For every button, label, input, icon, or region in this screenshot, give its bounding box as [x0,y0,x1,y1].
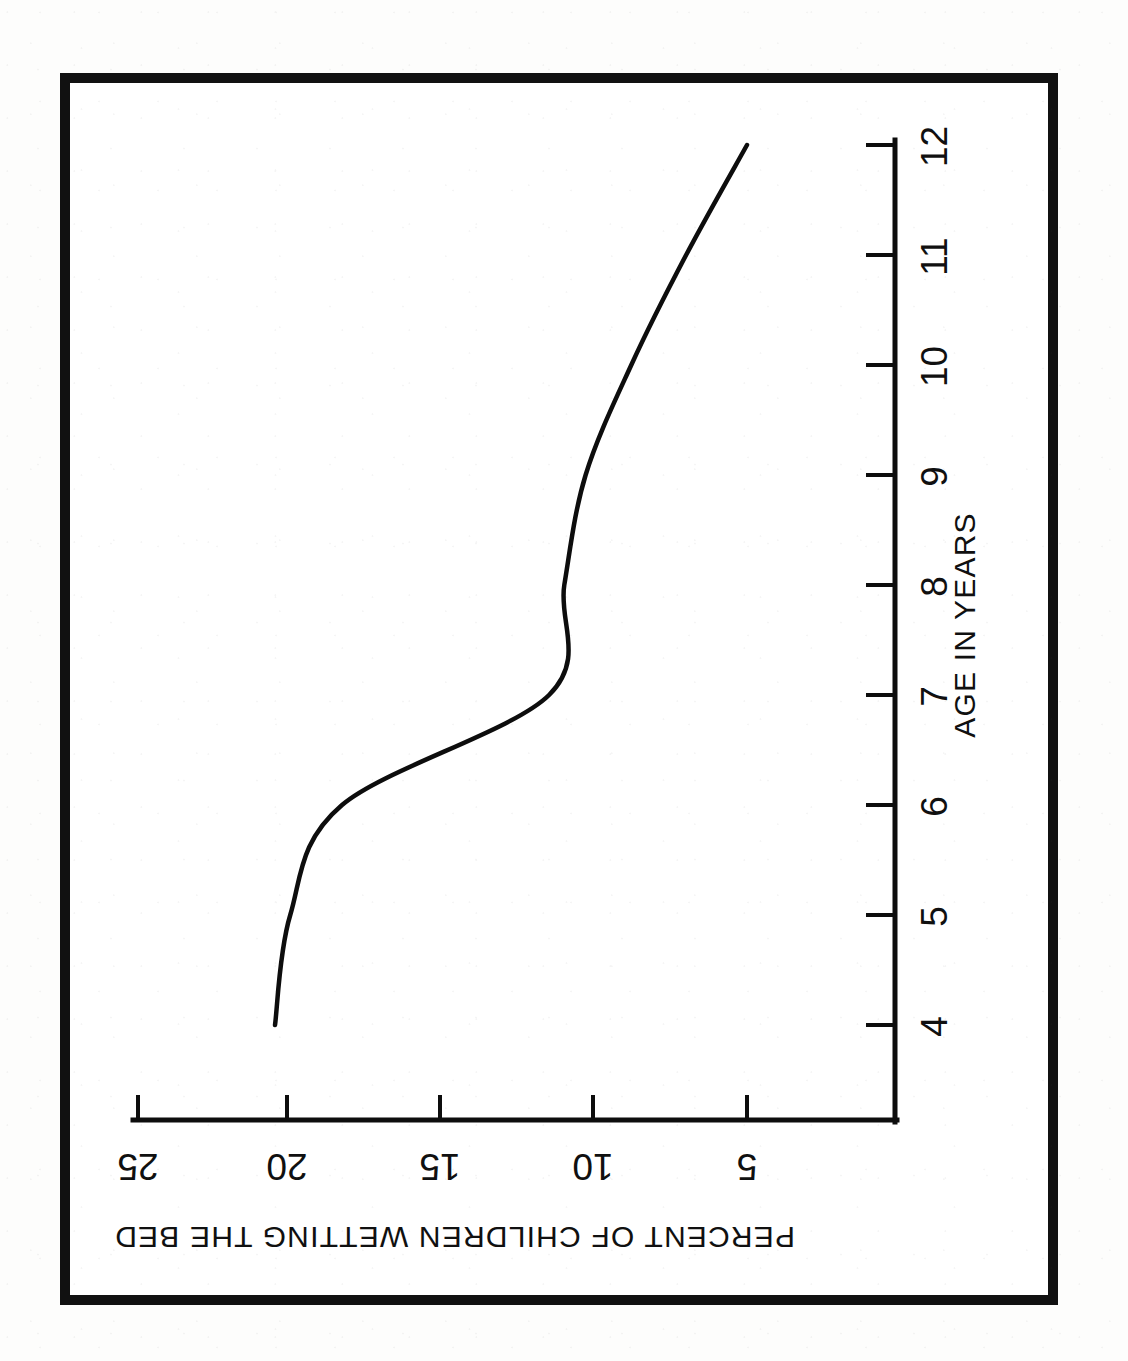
percent-axis-ticks [138,1095,747,1120]
percent-tick-label-25: 25 [114,1148,162,1185]
age-axis-ticks [866,145,895,1025]
percent-tick-label-20: 20 [263,1148,311,1185]
age-tick-label-8: 8 [916,559,953,615]
age-tick-label-12: 12 [916,119,953,175]
age-tick-label-6: 6 [916,779,953,835]
data-curve-percent-wetting [275,145,747,1025]
age-tick-label-5: 5 [916,889,953,945]
percent-tick-label-10: 10 [569,1148,617,1185]
age-tick-label-4: 4 [916,999,953,1055]
percent-tick-label-15: 15 [416,1148,464,1185]
plot-stage: 25 20 15 10 5 12 11 10 9 8 7 6 5 4 PERCE… [0,0,1128,1361]
percent-axis-title: PERCENT OF CHILDREN WETTING THE BED [155,1222,795,1252]
age-tick-label-11: 11 [916,229,953,285]
age-tick-label-10: 10 [916,339,953,395]
age-axis-title: AGE IN YEARS [950,510,980,740]
age-tick-label-7: 7 [916,669,953,725]
percent-tick-label-5: 5 [723,1148,771,1185]
age-tick-label-9: 9 [916,449,953,505]
